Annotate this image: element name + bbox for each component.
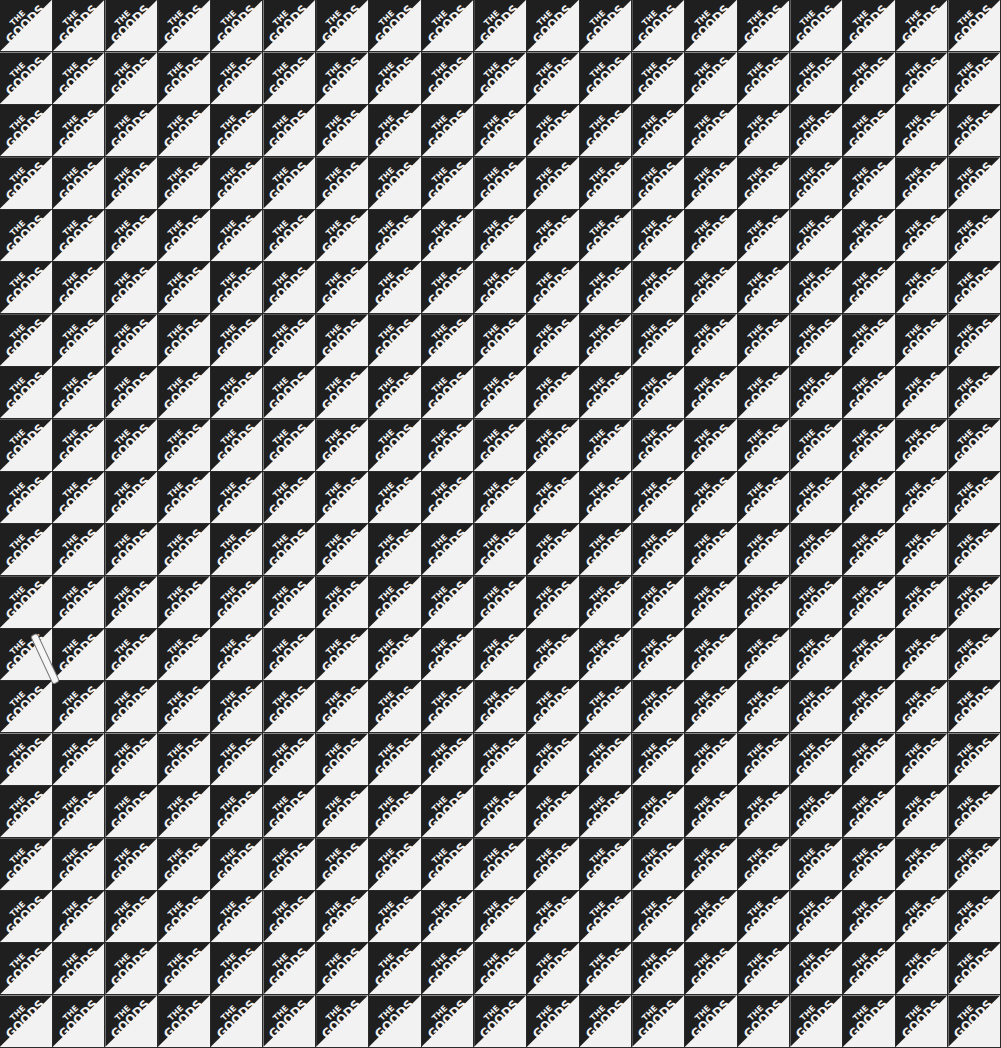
logo-tile: THE GOODS <box>896 52 949 104</box>
logo-tile: THE GOODS <box>369 157 422 209</box>
logo-tile: THE GOODS <box>790 576 843 628</box>
logo-tile: THE GOODS <box>158 210 211 262</box>
logo-tile: THE GOODS <box>474 262 527 314</box>
logo-tile: THE GOODS <box>53 943 106 995</box>
logo-tile: THE GOODS <box>0 157 53 209</box>
logo-tile: THE GOODS <box>790 995 843 1047</box>
logo-tile: THE GOODS <box>685 891 738 943</box>
logo-tile: THE GOODS <box>211 314 264 366</box>
logo-tile: THE GOODS <box>843 419 896 471</box>
logo-tile: THE GOODS <box>632 314 685 366</box>
logo-tile: THE GOODS <box>316 995 369 1047</box>
logo-tile: THE GOODS <box>527 52 580 104</box>
logo-tile: THE GOODS <box>422 367 475 419</box>
logo-tile: THE GOODS <box>105 995 158 1047</box>
logo-tile: THE GOODS <box>948 995 1001 1047</box>
logo-tile: THE GOODS <box>948 472 1001 524</box>
logo-tile: THE GOODS <box>316 105 369 157</box>
logo-tile: THE GOODS <box>422 629 475 681</box>
logo-tile: THE GOODS <box>738 157 791 209</box>
logo-tile: THE GOODS <box>948 629 1001 681</box>
logo-tile: THE GOODS <box>896 733 949 785</box>
logo-tile: THE GOODS <box>474 157 527 209</box>
logo-tile: THE GOODS <box>105 314 158 366</box>
logo-tile: THE GOODS <box>685 472 738 524</box>
logo-tile: THE GOODS <box>158 681 211 733</box>
logo-tile: THE GOODS <box>580 0 633 52</box>
logo-tile: THE GOODS <box>158 419 211 471</box>
logo-tile: THE GOODS <box>105 524 158 576</box>
logo-tile: THE GOODS <box>527 524 580 576</box>
logo-tile: THE GOODS <box>158 943 211 995</box>
logo-tile: THE GOODS <box>211 995 264 1047</box>
logo-tile: THE GOODS <box>685 681 738 733</box>
logo-tile: THE GOODS <box>685 786 738 838</box>
logo-tile: THE GOODS <box>105 786 158 838</box>
logo-tile: THE GOODS <box>105 210 158 262</box>
logo-tile: THE GOODS <box>422 157 475 209</box>
logo-tile: THE GOODS <box>105 838 158 890</box>
logo-tile: THE GOODS <box>474 524 527 576</box>
logo-tile: THE GOODS <box>369 891 422 943</box>
logo-tile: THE GOODS <box>0 262 53 314</box>
logo-tile: THE GOODS <box>580 52 633 104</box>
logo-tile: THE GOODS <box>369 105 422 157</box>
logo-tile: THE GOODS <box>896 838 949 890</box>
logo-tile: THE GOODS <box>948 943 1001 995</box>
logo-tile: THE GOODS <box>790 472 843 524</box>
logo-tile: THE GOODS <box>53 262 106 314</box>
logo-tile: THE GOODS <box>263 210 316 262</box>
logo-tile: THE GOODS <box>369 995 422 1047</box>
logo-tile: THE GOODS <box>369 419 422 471</box>
logo-tile: THE GOODS <box>685 995 738 1047</box>
logo-tile: THE GOODS <box>316 838 369 890</box>
logo-tile: THE GOODS <box>422 472 475 524</box>
logo-tile: THE GOODS <box>474 995 527 1047</box>
logo-tile: THE GOODS <box>316 0 369 52</box>
logo-tile: THE GOODS <box>474 367 527 419</box>
logo-tile: THE GOODS <box>843 943 896 995</box>
logo-tile: THE GOODS <box>105 576 158 628</box>
logo-tile: THE GOODS <box>580 943 633 995</box>
logo-tile: THE GOODS <box>632 891 685 943</box>
logo-tile: THE GOODS <box>527 210 580 262</box>
logo-tile: THE GOODS <box>474 105 527 157</box>
logo-tile: THE GOODS <box>263 629 316 681</box>
logo-tile: THE GOODS <box>211 210 264 262</box>
logo-tile: THE GOODS <box>896 891 949 943</box>
logo-tile: THE GOODS <box>527 995 580 1047</box>
logo-tile: THE GOODS <box>685 367 738 419</box>
logo-tile: THE GOODS <box>790 524 843 576</box>
logo-tile: THE GOODS <box>369 838 422 890</box>
logo-tile: THE GOODS <box>790 105 843 157</box>
logo-tile: THE GOODS <box>0 786 53 838</box>
logo-tile: THE GOODS <box>843 0 896 52</box>
logo-tile: THE GOODS <box>738 576 791 628</box>
logo-tile: THE GOODS <box>790 0 843 52</box>
logo-tile: THE GOODS <box>738 891 791 943</box>
logo-tile: THE GOODS <box>474 733 527 785</box>
logo-tile: THE GOODS <box>685 576 738 628</box>
logo-tile: THE GOODS <box>263 524 316 576</box>
logo-tile: THE GOODS <box>843 733 896 785</box>
logo-tile: THE GOODS <box>738 262 791 314</box>
logo-tile: THE GOODS <box>53 733 106 785</box>
logo-tile: THE GOODS <box>685 210 738 262</box>
logo-tile: THE GOODS <box>790 52 843 104</box>
logo-tile: THE GOODS <box>632 576 685 628</box>
logo-tile: THE GOODS <box>422 419 475 471</box>
logo-tile: THE GOODS <box>422 838 475 890</box>
logo-tile: THE GOODS <box>527 262 580 314</box>
logo-tile: THE GOODS <box>738 0 791 52</box>
logo-tile: THE GOODS <box>158 52 211 104</box>
logo-tile: THE GOODS <box>738 681 791 733</box>
logo-tile: THE GOODS <box>632 524 685 576</box>
logo-tile: THE GOODS <box>896 157 949 209</box>
logo-tile: THE GOODS <box>263 472 316 524</box>
logo-tile: THE GOODS <box>263 943 316 995</box>
logo-tile: THE GOODS <box>263 105 316 157</box>
logo-tile: THE GOODS <box>0 210 53 262</box>
logo-tile: THE GOODS <box>527 943 580 995</box>
logo-tile: THE GOODS <box>685 524 738 576</box>
logo-tile: THE GOODS <box>369 786 422 838</box>
